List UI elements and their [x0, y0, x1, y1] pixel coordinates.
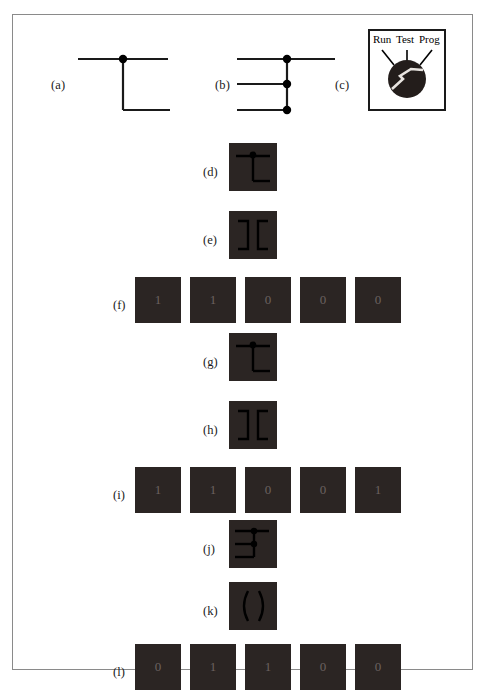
brackets-icon — [229, 211, 277, 259]
panel-label-i: (i) — [113, 488, 125, 503]
tile-digit-i-4[interactable]: 1 — [355, 467, 401, 513]
panel-label-d: (d) — [203, 165, 218, 180]
panel-label-h: (h) — [203, 423, 218, 438]
tile-glyph-h[interactable] — [229, 401, 277, 449]
tile-digit-l-4[interactable]: 0 — [355, 644, 401, 690]
tile-digit-f-2[interactable]: 0 — [245, 277, 291, 323]
dial-box[interactable]: Run Test Prog — [368, 29, 446, 111]
tile-glyph-g[interactable] — [229, 333, 277, 381]
tile-digit-value: 1 — [135, 482, 181, 498]
tile-digit-value: 0 — [300, 292, 346, 308]
tile-digit-value: 1 — [135, 292, 181, 308]
tile-digit-f-1[interactable]: 1 — [190, 277, 236, 323]
tile-digit-value: 1 — [190, 659, 236, 675]
junction-triple-diagram-b — [235, 37, 345, 117]
tile-digit-value: 0 — [300, 482, 346, 498]
panel-label-l: (l) — [113, 665, 125, 680]
tile-digit-value: 1 — [190, 292, 236, 308]
panel-label-k: (k) — [203, 604, 218, 619]
panel-label-g: (g) — [203, 355, 218, 370]
tile-glyph-e[interactable] — [229, 211, 277, 259]
tile-digit-value: 0 — [300, 659, 346, 675]
junction-single-diagram-a — [73, 37, 183, 117]
tile-digit-l-0[interactable]: 0 — [135, 644, 181, 690]
tile-digit-f-4[interactable]: 0 — [355, 277, 401, 323]
brackets-icon — [229, 401, 277, 449]
tile-digit-f-0[interactable]: 1 — [135, 277, 181, 323]
tile-digit-i-3[interactable]: 0 — [300, 467, 346, 513]
tile-digit-value: 0 — [355, 659, 401, 675]
tile-digit-value: 1 — [190, 482, 236, 498]
panel-label-a: (a) — [51, 78, 65, 93]
tile-glyph-d[interactable] — [229, 143, 277, 191]
tile-digit-l-3[interactable]: 0 — [300, 644, 346, 690]
panel-label-f: (f) — [113, 298, 126, 313]
panel-label-b: (b) — [215, 78, 230, 93]
tile-glyph-j[interactable] — [229, 520, 277, 568]
panel-label-e: (e) — [203, 233, 217, 248]
tile-digit-f-3[interactable]: 0 — [300, 277, 346, 323]
tile-digit-value: 1 — [355, 482, 401, 498]
figure-panel: (a) (b) (c) Run Test Prog (d) — [12, 14, 473, 670]
tile-digit-i-0[interactable]: 1 — [135, 467, 181, 513]
tile-digit-value: 1 — [245, 659, 291, 675]
tile-digit-value: 0 — [355, 292, 401, 308]
dial-graphic — [370, 31, 444, 109]
junction-single-icon — [229, 333, 277, 381]
tile-digit-l-2[interactable]: 1 — [245, 644, 291, 690]
tile-glyph-k[interactable] — [229, 582, 277, 630]
tile-digit-value: 0 — [245, 482, 291, 498]
tile-digit-value: 0 — [245, 292, 291, 308]
panel-label-j: (j) — [203, 542, 215, 557]
panel-label-c: (c) — [335, 78, 349, 93]
arcs-icon — [229, 582, 277, 630]
tile-digit-i-1[interactable]: 1 — [190, 467, 236, 513]
tile-digit-i-2[interactable]: 0 — [245, 467, 291, 513]
junction-single-icon — [229, 143, 277, 191]
junction-triple-icon — [229, 520, 277, 568]
tile-digit-value: 0 — [135, 659, 181, 675]
tile-digit-l-1[interactable]: 1 — [190, 644, 236, 690]
